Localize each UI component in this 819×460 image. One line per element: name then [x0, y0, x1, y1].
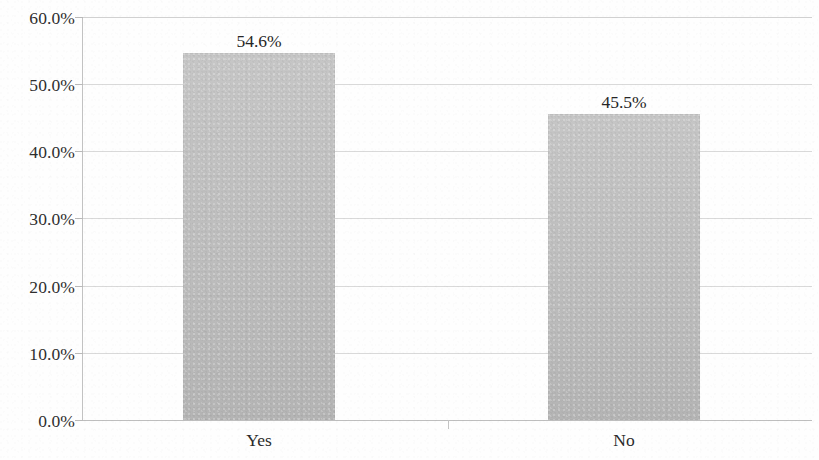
y-tick-mark-30	[75, 218, 83, 219]
y-axis-label-20: 20.0%	[0, 277, 75, 298]
y-tick-mark-10	[75, 353, 83, 354]
y-axis-label-30: 30.0%	[0, 209, 75, 230]
y-tick-mark-60	[75, 17, 83, 18]
y-axis-label-40: 40.0%	[0, 142, 75, 163]
y-axis-label-10: 10.0%	[0, 344, 75, 365]
axis-baseline-0	[82, 420, 812, 421]
y-axis-line	[82, 17, 83, 421]
y-tick-mark-20	[75, 286, 83, 287]
x-tick-mark-center	[448, 420, 449, 429]
y-axis-label-50: 50.0%	[0, 75, 75, 96]
y-tick-mark-40	[75, 151, 83, 152]
x-axis-label-yes: Yes	[183, 430, 335, 451]
y-tick-mark-0	[75, 420, 83, 421]
bar-yes	[183, 53, 335, 420]
y-axis-label-0: 0.0%	[0, 411, 75, 432]
bar-no	[548, 114, 700, 420]
y-tick-mark-50	[75, 84, 83, 85]
bar-value-label-no: 45.5%	[548, 92, 700, 113]
x-axis-label-no: No	[548, 430, 700, 451]
gridline-60	[82, 17, 812, 18]
y-axis-label-60: 60.0%	[0, 8, 75, 29]
bar-value-label-yes: 54.6%	[183, 31, 335, 52]
bar-chart-figure: 60.0% 50.0% 40.0% 30.0% 20.0% 10.0% 0.0%…	[0, 0, 819, 460]
